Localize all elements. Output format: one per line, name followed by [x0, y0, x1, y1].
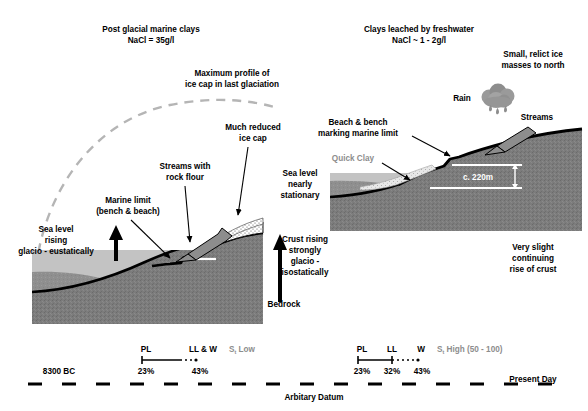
right-heading-line1: Clays leached by freshwater [364, 25, 475, 34]
streams-rock-flour-label-line2: rock flour [166, 173, 205, 182]
left-scale-value-pl: 23% [138, 367, 155, 376]
bedrock-label: Bedrock [268, 300, 301, 309]
right-scale-mark-ll: LL [387, 345, 397, 354]
right-scale-value-ll: 32% [384, 367, 401, 376]
streams-rock-flour-label-line1: Streams with [160, 162, 211, 171]
rain-label: Rain [453, 94, 471, 103]
diagram-canvas: Post glacial marine clays NaCl = 35g/l M… [0, 0, 588, 411]
crust-rise-slight-label-line1: Very slight [512, 243, 554, 252]
marine-limit-label-line2: (bench & beach) [96, 207, 160, 216]
elevation-label: c. 220m [463, 173, 493, 182]
crust-rising-label-line3: glacio - [291, 257, 320, 266]
right-sea-level-label-line2: nearly [288, 180, 313, 189]
reduced-ice-cap-label-line2: ice cap [239, 134, 267, 143]
crust-rising-label-line2: strongly [289, 246, 322, 255]
right-scale-mark-w: W [417, 345, 425, 354]
timeline-start-label: 8300 BC [43, 367, 75, 376]
right-sea-level-label-line1: Sea level [282, 169, 317, 178]
right-scale-endpoint-dot [416, 358, 419, 361]
marine-limit-label-line1: Marine limit [105, 196, 151, 205]
sea-level-rising-label-line3: glacio - eustatically [18, 247, 94, 256]
beach-bench-label-line2: marking marine limit [318, 129, 398, 138]
max-ice-profile-label-line2: ice cap in last glaciation [185, 80, 279, 89]
left-scale-value-ll-w: 43% [192, 367, 209, 376]
right-scale-value-w: 43% [414, 367, 431, 376]
max-ice-profile-label-line1: Maximum profile of [194, 69, 269, 78]
left-scale-mark-pl: PL [141, 345, 151, 354]
crust-rise-slight-label-line3: rise of crust [510, 265, 557, 274]
right-heading-line2: NaCl ~ 1 - 2g/l [392, 36, 446, 45]
relict-ice-label-line2: masses to north [501, 61, 564, 70]
left-scale-mark-ll-w: LL & W [189, 345, 217, 354]
quick-clay-label: Quick Clay [332, 154, 375, 163]
reduced-ice-cap-label-line1: Much reduced [225, 123, 281, 132]
crust-rise-slight-label-line2: continuing [512, 254, 554, 263]
left-scale-sensitivity: St Low [229, 345, 256, 355]
sea-level-rising-label-line2: rising [45, 236, 67, 245]
left-heading-line1: Post glacial marine clays [102, 25, 200, 34]
right-scale-mark-pl: PL [357, 345, 367, 354]
sea-level-rising-label-line1: Sea level [38, 225, 73, 234]
right-sea-level-label-line3: stationary [280, 191, 320, 200]
crust-rising-label-line1: Crust rising [282, 235, 328, 244]
right-streams-label: Streams [521, 113, 554, 122]
geology-cross-section-diagram: Post glacial marine clays NaCl = 35g/l M… [0, 0, 588, 411]
arbitrary-datum-label: Arbitary Datum [284, 393, 343, 402]
crust-rising-label-line4: isostatically [282, 268, 329, 277]
right-scale-value-pl: 23% [354, 367, 371, 376]
right-scale-sensitivity: St High (50 - 100) [437, 345, 503, 355]
relict-ice-label-line1: Small, relict ice [503, 50, 563, 59]
left-heading-line2: NaCl = 35g/l [128, 36, 175, 45]
beach-bench-label-line1: Beach & bench [328, 118, 387, 127]
left-scale-endpoint-dot [194, 358, 197, 361]
